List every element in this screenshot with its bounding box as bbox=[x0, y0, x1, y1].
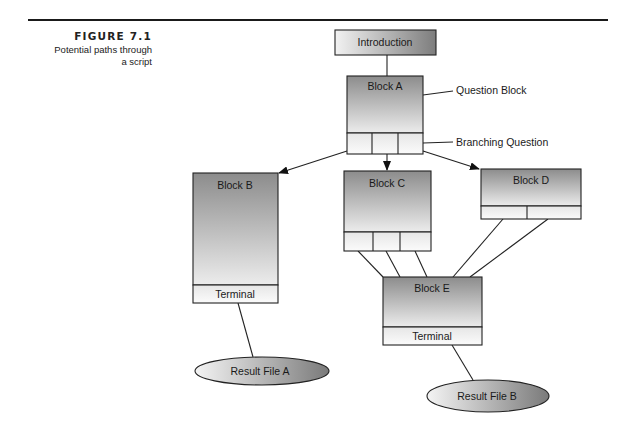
question-block-annotation: Question Block bbox=[456, 84, 527, 96]
introduction-label: Introduction bbox=[358, 36, 413, 48]
result-file-b-label: Result File B bbox=[457, 390, 517, 402]
script-paths-diagram: Introduction Block A Question Block Bran… bbox=[0, 0, 631, 438]
block-a-label: Block A bbox=[367, 80, 402, 92]
block-c-label: Block C bbox=[369, 177, 406, 189]
block-d: Block D bbox=[481, 169, 581, 219]
block-b-label: Block B bbox=[217, 179, 253, 191]
block-a: Block A bbox=[347, 76, 423, 154]
result-file-a-label: Result File A bbox=[231, 365, 290, 377]
block-b: Block B Terminal bbox=[193, 173, 278, 303]
result-file-b: Result File B bbox=[427, 380, 549, 412]
block-d-label: Block D bbox=[513, 174, 550, 186]
block-e-label: Block E bbox=[414, 282, 450, 294]
block-c: Block C bbox=[344, 171, 431, 251]
block-e-terminal-label: Terminal bbox=[412, 330, 452, 342]
block-b-terminal-label: Terminal bbox=[215, 288, 255, 300]
branching-question-annotation: Branching Question bbox=[456, 136, 548, 148]
introduction-box: Introduction bbox=[335, 30, 436, 55]
result-file-a: Result File A bbox=[195, 357, 329, 385]
block-e: Block E Terminal bbox=[383, 277, 482, 345]
